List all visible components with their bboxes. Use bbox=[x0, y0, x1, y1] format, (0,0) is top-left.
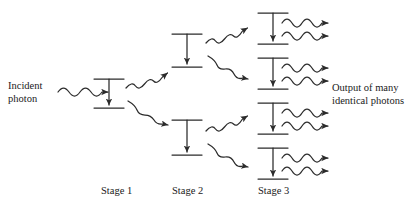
output-photon-4b bbox=[282, 167, 328, 175]
stage-label-2: Stage 2 bbox=[172, 185, 203, 196]
atom-stage3-1 bbox=[258, 13, 288, 44]
stage-label-3: Stage 3 bbox=[258, 185, 289, 196]
photon-s1-up bbox=[126, 73, 168, 88]
output-photon-2b bbox=[282, 77, 328, 85]
output-photon-2a bbox=[282, 64, 328, 72]
output-photon-1b bbox=[282, 32, 328, 40]
output-photon-4a bbox=[282, 154, 328, 162]
output-photon-3a bbox=[282, 109, 328, 117]
photon-s2b-down bbox=[208, 144, 248, 167]
photon-s1-down bbox=[128, 101, 168, 125]
photon-s2a-up bbox=[206, 28, 248, 43]
stage-label-1: Stage 1 bbox=[101, 185, 132, 196]
output-photon-1a bbox=[282, 19, 328, 27]
stimulated-emission-diagram: Incident photon Output of many identical… bbox=[0, 0, 413, 209]
output-photon-3b bbox=[282, 122, 328, 130]
atom-stage2-2 bbox=[172, 120, 202, 155]
output-label: Output of many identical photons bbox=[332, 82, 404, 107]
atom-stage2-1 bbox=[172, 34, 202, 67]
atom-stage3-4 bbox=[258, 148, 288, 179]
incident-photon-wave bbox=[58, 88, 108, 96]
atom-stage1-1 bbox=[94, 79, 124, 108]
atom-stage3-2 bbox=[258, 58, 288, 89]
incident-photon-label: Incident photon bbox=[8, 80, 42, 105]
photon-s2a-down bbox=[208, 56, 248, 79]
atom-stage3-3 bbox=[258, 103, 288, 134]
photon-s2b-up bbox=[206, 116, 248, 131]
